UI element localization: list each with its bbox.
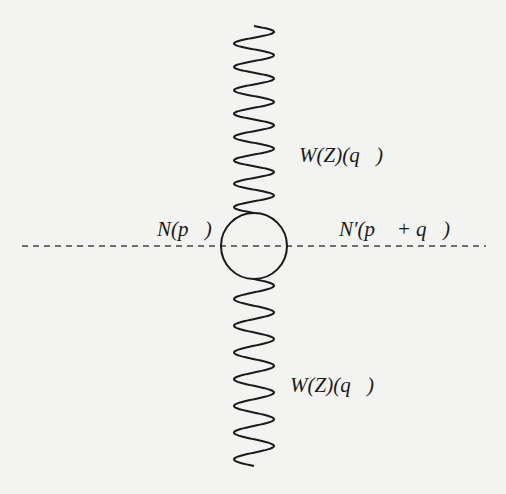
feynman-diagram — [0, 0, 506, 494]
bottom-boson-label: W(Z)(q⃗) — [290, 375, 374, 396]
top-wavy-boson-line — [234, 26, 274, 213]
bottom-wavy-boson-line — [234, 279, 274, 466]
top-boson-label: W(Z)(q⃗) — [299, 145, 383, 166]
outgoing-nucleon-label: N′(p⃗ + q⃗) — [339, 219, 450, 240]
incoming-nucleon-label: N(p⃗) — [157, 219, 212, 240]
